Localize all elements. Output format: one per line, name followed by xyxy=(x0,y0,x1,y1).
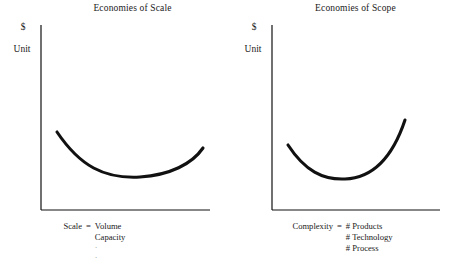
caption-economies-of-scale: Scale = Volume Capacity · · xyxy=(50,221,125,263)
caption-values-left: Volume Capacity · · xyxy=(95,221,126,263)
caption-value-process: # Process xyxy=(346,243,393,254)
caption-term-complexity: Complexity xyxy=(281,221,333,232)
caption-values-right: # Products # Technology # Process xyxy=(346,221,393,255)
panel-economies-of-scope: Economies of Scope $ Unit Complexity = #… xyxy=(229,0,458,266)
panel-economies-of-scale: Economies of Scale $ Unit Scale = Volume… xyxy=(0,0,229,266)
caption-equals-left: = xyxy=(82,221,95,232)
cost-curve-economies-of-scale xyxy=(57,132,203,177)
caption-value-capacity: Capacity xyxy=(95,232,126,243)
caption-term-scale: Scale xyxy=(50,221,82,232)
cost-curve-economies-of-scope xyxy=(288,120,405,179)
caption-mark-1: · xyxy=(95,243,126,253)
caption-mark-2: · xyxy=(95,253,126,263)
caption-value-technology: # Technology xyxy=(346,232,393,243)
caption-economies-of-scope: Complexity = # Products # Technology # P… xyxy=(281,221,393,255)
caption-equals-right: = xyxy=(333,221,346,232)
caption-value-products: # Products xyxy=(346,221,383,231)
caption-value-volume: Volume xyxy=(95,221,122,231)
two-panel-cost-curve-figure: Economies of Scale $ Unit Scale = Volume… xyxy=(0,0,458,266)
